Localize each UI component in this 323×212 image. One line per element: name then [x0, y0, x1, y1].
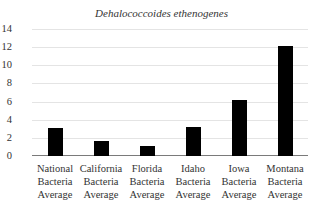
- x-tick-label: IdahoBacteriaAverage: [170, 162, 216, 201]
- gridline: [32, 47, 308, 48]
- chart-title: Dehalococcoides ethenogenes: [0, 7, 323, 19]
- bar: [278, 46, 293, 156]
- x-tick-label-line: Average: [124, 188, 170, 201]
- x-tick-label-line: Average: [170, 188, 216, 201]
- x-tick-label-line: Bacteria: [124, 175, 170, 188]
- y-tick-label: 6: [0, 96, 12, 108]
- x-tick-label-line: National: [32, 162, 78, 175]
- x-axis-line: [32, 155, 308, 156]
- y-tick-label: 0: [0, 150, 12, 162]
- gridline: [32, 138, 308, 139]
- x-tick-label-line: Average: [32, 188, 78, 201]
- y-tick-label: 2: [0, 132, 12, 144]
- x-tick-label-line: Bacteria: [216, 175, 262, 188]
- x-tick-label-line: Bacteria: [170, 175, 216, 188]
- x-tick-label-line: Bacteria: [78, 175, 124, 188]
- x-tick-label-line: Average: [216, 188, 262, 201]
- x-tick-label: FloridaBacteriaAverage: [124, 162, 170, 201]
- y-tick-label: 8: [0, 77, 12, 89]
- gridline: [32, 65, 308, 66]
- x-tick-label-line: Average: [262, 188, 308, 201]
- x-tick-label: IowaBacteriaAverage: [216, 162, 262, 201]
- x-tick-label-line: Montana: [262, 162, 308, 175]
- x-tick-label-line: Bacteria: [32, 175, 78, 188]
- bar: [186, 127, 201, 156]
- x-tick-label-line: Average: [78, 188, 124, 201]
- plot-area: 02468101214: [32, 29, 308, 156]
- x-tick-label-line: Idaho: [170, 162, 216, 175]
- x-tick-label: MontanaBacteriaAverage: [262, 162, 308, 201]
- y-tick-label: 10: [0, 59, 12, 71]
- y-tick-label: 14: [0, 23, 12, 35]
- gridline: [32, 102, 308, 103]
- bar: [140, 146, 155, 156]
- y-tick-label: 4: [0, 114, 12, 126]
- gridline: [32, 29, 308, 30]
- x-tick-label-line: Bacteria: [262, 175, 308, 188]
- bar: [94, 141, 109, 156]
- gridline: [32, 83, 308, 84]
- y-tick-label: 12: [0, 41, 12, 53]
- bar: [232, 100, 247, 156]
- x-tick-label: CaliforniaBacteriaAverage: [78, 162, 124, 201]
- bar: [48, 128, 63, 156]
- x-tick-label-line: Florida: [124, 162, 170, 175]
- x-tick-label: NationalBacteriaAverage: [32, 162, 78, 201]
- x-tick-label-line: Iowa: [216, 162, 262, 175]
- x-tick-label-line: California: [78, 162, 124, 175]
- gridline: [32, 120, 308, 121]
